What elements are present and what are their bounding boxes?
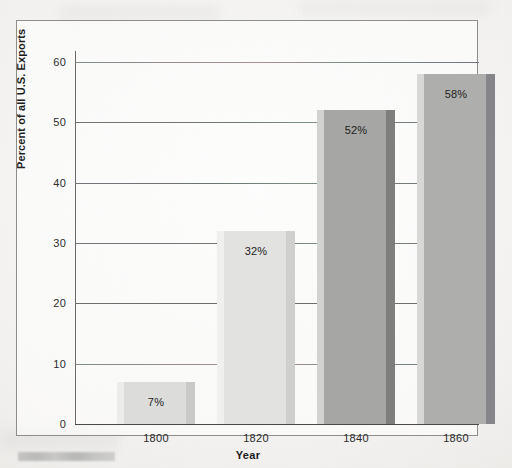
bar-value-label-1820: 32% bbox=[245, 245, 268, 424]
y-tick-label-50: 50 bbox=[53, 116, 66, 128]
gridline-60 bbox=[75, 62, 479, 63]
bar-value-label-1860: 58% bbox=[445, 88, 468, 424]
x-tick-label-1840: 1840 bbox=[343, 432, 369, 444]
caption-strip-blurred bbox=[18, 452, 115, 461]
bar-1820[interactable]: 32% bbox=[217, 231, 295, 424]
bar-1840[interactable]: 52% bbox=[317, 110, 395, 424]
bar-value-label-1840: 52% bbox=[345, 124, 368, 424]
bar-shadow-edge bbox=[486, 74, 495, 424]
bar-1800[interactable]: 7% bbox=[117, 382, 195, 424]
bar-value-label-1800: 7% bbox=[148, 396, 164, 424]
bar-shadow-edge bbox=[186, 382, 195, 424]
x-tick-label-1860: 1860 bbox=[443, 432, 469, 444]
bar-highlight-edge bbox=[317, 110, 324, 424]
gridline-0-axis bbox=[75, 424, 479, 425]
x-tick-label-1800: 1800 bbox=[143, 432, 169, 444]
y-tick-label-20: 20 bbox=[53, 297, 66, 309]
bar-highlight-edge bbox=[217, 231, 224, 424]
plot-area: 60 50 40 30 20 10 0 7% 32% 52% bbox=[75, 62, 479, 424]
chart-figure-frame: Percent of all U.S. Exports 60 50 40 30 … bbox=[16, 20, 478, 436]
bar-highlight-edge bbox=[417, 74, 424, 424]
y-tick-label-60: 60 bbox=[53, 56, 66, 68]
x-tick-label-1820: 1820 bbox=[243, 432, 269, 444]
bar-highlight-edge bbox=[117, 382, 124, 424]
bar-1860[interactable]: 58% bbox=[417, 74, 495, 424]
y-tick-label-10: 10 bbox=[53, 358, 66, 370]
bar-shadow-edge bbox=[386, 110, 395, 424]
bar-shadow-edge bbox=[286, 231, 295, 424]
y-tick-label-40: 40 bbox=[53, 177, 66, 189]
y-tick-label-30: 30 bbox=[53, 237, 66, 249]
y-tick-label-0: 0 bbox=[60, 418, 66, 430]
y-axis-title: Percent of all U.S. Exports bbox=[15, 0, 27, 169]
